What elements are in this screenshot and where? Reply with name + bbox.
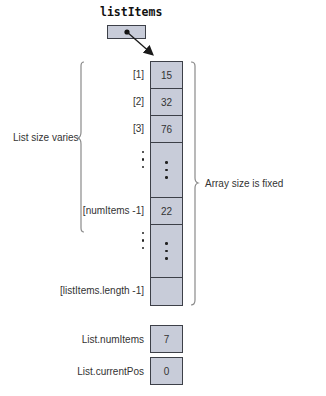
connectors	[0, 0, 326, 396]
right-brace-icon	[191, 62, 198, 305]
left-brace-icon	[78, 62, 84, 232]
pointer-arrow-icon	[127, 32, 152, 54]
